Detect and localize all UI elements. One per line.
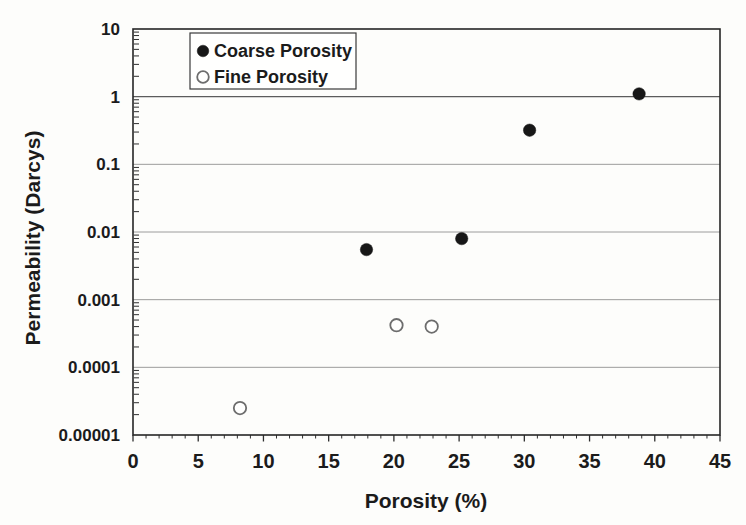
legend-filled-circle-icon [197,45,209,57]
x-tick-label: 20 [383,450,405,472]
data-point-fine-porosity [234,402,246,414]
legend-open-circle-icon [197,71,209,83]
scanned-chart-page: 1010.10.010.0010.00010.00001051015202530… [0,0,746,525]
legend-label-coarse-porosity: Coarse Porosity [214,41,352,61]
y-axis-title: Permeability (Darcys) [21,131,44,346]
data-point-fine-porosity [390,319,402,331]
data-points [234,88,646,415]
data-point-fine-porosity [426,320,438,332]
legend: Coarse Porosity Fine Porosity [190,33,356,89]
y-tick-label: 0.0001 [68,358,120,377]
y-tick-label: 1 [111,88,120,107]
x-tick-label: 0 [127,450,138,472]
y-tick-label: 0.00001 [59,426,120,445]
x-tick-label: 40 [644,450,666,472]
data-point-coarse-porosity [633,88,645,100]
y-tick-label: 0.1 [96,155,120,174]
porosity-permeability-scatter-chart: 1010.10.010.0010.00010.00001051015202530… [0,0,746,525]
axes-and-grid: 1010.10.010.0010.00010.00001051015202530… [59,20,732,472]
y-tick-label: 0.01 [87,223,120,242]
legend-label-fine-porosity: Fine Porosity [214,67,328,87]
x-tick-label: 5 [193,450,204,472]
y-tick-label: 10 [101,20,120,39]
x-tick-label: 15 [318,450,340,472]
x-tick-label: 25 [448,450,470,472]
x-tick-label: 45 [709,450,731,472]
x-axis-title: Porosity (%) [365,489,488,512]
data-point-coarse-porosity [523,124,535,136]
data-point-coarse-porosity [456,232,468,244]
x-tick-label: 10 [252,450,274,472]
x-tick-label: 30 [513,450,535,472]
data-point-coarse-porosity [360,243,372,255]
y-tick-label: 0.001 [77,291,120,310]
x-tick-label: 35 [578,450,600,472]
